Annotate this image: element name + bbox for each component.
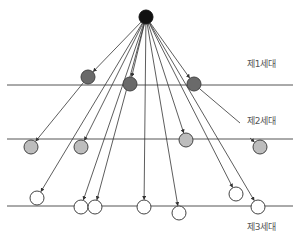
- arrow-root-g3e: [147, 24, 178, 206]
- gen3-node: [88, 200, 102, 214]
- gen1-label: 제1세대: [247, 57, 276, 70]
- gen2-label: 제2세대: [247, 114, 276, 127]
- arrow-root-g1b: [132, 24, 145, 77]
- gen1-node: [81, 70, 95, 84]
- gen3-node: [74, 200, 88, 214]
- gen3-node: [229, 187, 243, 201]
- arrow-root-g1c: [150, 23, 190, 78]
- gen1-node: [123, 77, 137, 91]
- gen2-node: [179, 133, 193, 147]
- gen1-node: [187, 77, 201, 91]
- gen2-node: [24, 140, 38, 154]
- gen3-node: [137, 200, 151, 214]
- gen2-node: [253, 140, 267, 154]
- root-node: [139, 10, 153, 24]
- gen3-node: [251, 200, 265, 214]
- arrow-root-g3a: [41, 23, 142, 192]
- arrow-root-g3g: [150, 23, 255, 201]
- generation-lines: [7, 85, 293, 206]
- arrow-root-g2c: [148, 24, 184, 133]
- arrow-root-g3c: [97, 24, 144, 200]
- gen3-node: [172, 206, 186, 220]
- arrow-root-g1a: [93, 22, 141, 72]
- gen3-label: 제3세대: [247, 220, 276, 233]
- gen2-node: [74, 140, 88, 154]
- gen3-node: [30, 191, 44, 205]
- arrow-root-g3d: [144, 24, 146, 200]
- arrow-root-g3f: [149, 23, 232, 187]
- arrows: [36, 22, 255, 206]
